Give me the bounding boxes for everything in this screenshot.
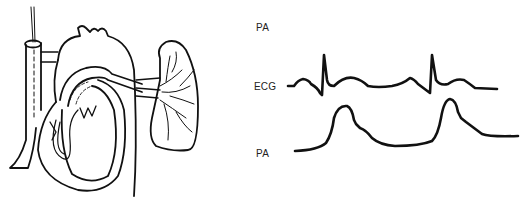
ecg-trace: [288, 55, 497, 95]
pa-pressure-label: PA: [256, 148, 269, 159]
pa-pressure-trace: [295, 99, 518, 151]
top-pa-label: PA: [256, 22, 269, 33]
ecg-label: ECG: [254, 81, 276, 92]
